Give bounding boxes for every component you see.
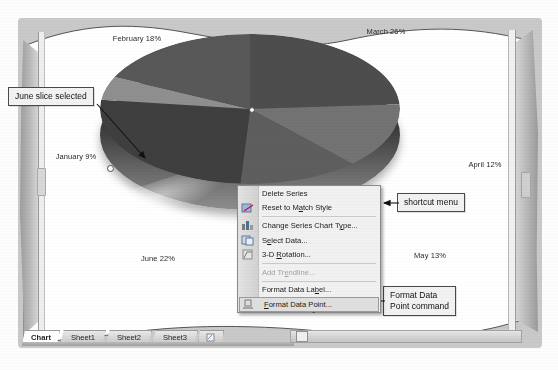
- menu-item-label: Reset to Match Style: [262, 203, 332, 212]
- data-label-april[interactable]: April 12%: [464, 160, 506, 169]
- select-data-icon: [241, 235, 255, 246]
- horizontal-scrollbar[interactable]: [290, 330, 522, 343]
- menu-item-add-trendline: Add Trendline...: [238, 265, 380, 280]
- menu-item-format-data-label[interactable]: Format Data Label...: [238, 283, 380, 298]
- menu-item-format-data-point[interactable]: Format Data Point...: [239, 297, 379, 312]
- menu-item-reset-to-match-style[interactable]: Reset to Match Style: [238, 201, 380, 216]
- scanned-page: February 18% March 26% April 12% May 13%…: [0, 0, 558, 370]
- menu-item-label: Select Data...: [262, 236, 308, 245]
- pie-slice-march: [250, 34, 400, 109]
- menu-item-label: Format Data Point...: [264, 300, 332, 309]
- chart-type-icon: [241, 220, 255, 231]
- menu-separator: [262, 216, 376, 217]
- reset-style-icon: [241, 203, 255, 214]
- callout-format-data-point-command: Format Data Point command: [383, 286, 456, 316]
- tab-bar-strip: [22, 342, 294, 346]
- horizontal-scrollbar-thumb[interactable]: [296, 331, 308, 342]
- callout-shortcut-menu: shortcut menu: [397, 193, 465, 212]
- vertical-scrollbar-track-right[interactable]: [508, 30, 516, 330]
- selection-handle-center[interactable]: [248, 106, 256, 114]
- menu-item-select-data[interactable]: Select Data...: [238, 233, 380, 248]
- format-point-icon: [241, 299, 255, 310]
- menu-item-label: Add Trendline...: [262, 268, 315, 277]
- menu-item-label: Change Series Chart Type...: [262, 221, 358, 230]
- callout-june-slice-selected: June slice selected: [8, 87, 94, 106]
- selection-handle-june[interactable]: [106, 164, 115, 173]
- menu-item-3d-rotation[interactable]: 3-D Rotation...: [238, 247, 380, 262]
- data-label-january[interactable]: January 9%: [52, 152, 100, 161]
- menu-separator: [262, 281, 376, 282]
- menu-item-change-series-chart-type[interactable]: Change Series Chart Type...: [238, 218, 380, 233]
- menu-item-label: Delete Series: [262, 189, 308, 198]
- vertical-scrollbar-thumb-right[interactable]: [521, 172, 531, 198]
- data-label-march[interactable]: March 26%: [362, 27, 410, 36]
- menu-item-delete-series[interactable]: Delete Series: [238, 186, 380, 201]
- data-label-may[interactable]: May 13%: [410, 251, 450, 260]
- data-label-february[interactable]: February 18%: [108, 34, 166, 43]
- data-label-june[interactable]: June 22%: [137, 254, 179, 263]
- shortcut-menu[interactable]: Delete Series Reset to Match Style Chang…: [237, 185, 381, 313]
- menu-item-label: Format Data Label...: [262, 285, 331, 294]
- rotation-icon: [241, 249, 255, 260]
- menu-item-label: 3-D Rotation...: [262, 250, 311, 259]
- menu-separator: [262, 263, 376, 264]
- window-left-edge: [20, 34, 38, 334]
